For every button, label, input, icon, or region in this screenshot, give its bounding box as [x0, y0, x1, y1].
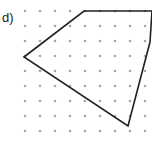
lattice-dot [99, 85, 102, 88]
lattice-dot [69, 10, 72, 13]
lattice-dot [69, 40, 72, 43]
lattice-dot [69, 100, 72, 103]
lattice-dot [99, 55, 102, 58]
lattice-dot [39, 130, 42, 133]
lattice-dot [129, 55, 132, 58]
lattice-dot [84, 130, 87, 133]
lattice-dot [54, 100, 57, 103]
lattice-dot [84, 115, 87, 118]
lattice-dot [84, 25, 87, 28]
lattice-dot [24, 100, 27, 103]
lattice-dot [84, 70, 87, 73]
polygon-canvas [0, 0, 152, 144]
lattice-dot [114, 100, 117, 103]
lattice-dot [54, 55, 57, 58]
lattice-dot [39, 40, 42, 43]
lattice-dot [99, 25, 102, 28]
lattice-dot [24, 115, 27, 118]
lattice-dot [39, 100, 42, 103]
lattice-dot [54, 85, 57, 88]
lattice-dot [99, 100, 102, 103]
lattice-dot [114, 55, 117, 58]
lattice-dot [99, 115, 102, 118]
lattice-dot [39, 55, 42, 58]
lattice-dot [129, 70, 132, 73]
lattice-dot [54, 130, 57, 133]
lattice-dot [24, 130, 27, 133]
lattice-dot [99, 130, 102, 133]
lattice-dot [129, 25, 132, 28]
lattice-dot [54, 40, 57, 43]
lattice-dot [69, 130, 72, 133]
lattice-dot [39, 70, 42, 73]
polygon-layer [24, 11, 152, 126]
lattice-dot [129, 85, 132, 88]
lattice-dot [114, 70, 117, 73]
lattice-dot [129, 100, 132, 103]
lattice-dot [84, 100, 87, 103]
lattice-dot [144, 85, 147, 88]
polygon-outline [24, 11, 152, 126]
lattice-dot [39, 115, 42, 118]
lattice-dot [144, 25, 147, 28]
lattice-dot [54, 70, 57, 73]
lattice-dot [24, 10, 27, 13]
lattice-dot [39, 10, 42, 13]
dot-grid-figure: d) [0, 0, 152, 144]
lattice-dot [69, 55, 72, 58]
lattice-dot [144, 40, 147, 43]
lattice-dot-layer [24, 10, 147, 133]
lattice-dot [114, 85, 117, 88]
lattice-dot [69, 25, 72, 28]
lattice-dot [24, 70, 27, 73]
lattice-dot [84, 40, 87, 43]
lattice-dot [144, 130, 147, 133]
lattice-dot [24, 25, 27, 28]
lattice-dot [69, 70, 72, 73]
lattice-dot [39, 85, 42, 88]
lattice-dot [99, 40, 102, 43]
lattice-dot [24, 85, 27, 88]
lattice-dot [84, 55, 87, 58]
lattice-dot [54, 10, 57, 13]
lattice-dot [54, 115, 57, 118]
lattice-dot [114, 40, 117, 43]
lattice-dot [129, 40, 132, 43]
lattice-dot [114, 25, 117, 28]
lattice-dot [24, 40, 27, 43]
lattice-dot [129, 130, 132, 133]
lattice-dot [144, 100, 147, 103]
lattice-dot [144, 115, 147, 118]
lattice-dot [99, 70, 102, 73]
lattice-dot [39, 25, 42, 28]
part-label: d) [2, 10, 14, 25]
lattice-dot [69, 115, 72, 118]
lattice-dot [144, 70, 147, 73]
lattice-dot [114, 130, 117, 133]
lattice-dot [54, 25, 57, 28]
lattice-dot [84, 85, 87, 88]
